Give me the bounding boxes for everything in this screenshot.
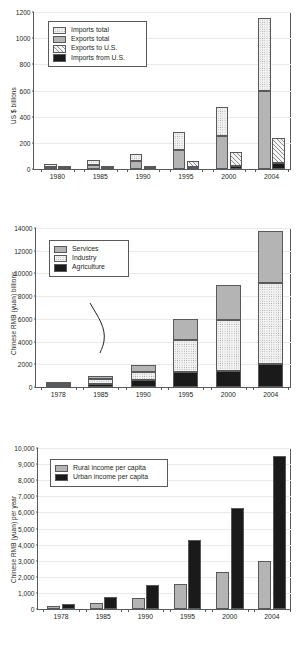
gridline bbox=[38, 529, 291, 530]
y-tick-mark bbox=[36, 592, 38, 593]
x-tick-mark bbox=[118, 387, 119, 390]
legend-swatch-solidgray-icon bbox=[55, 465, 68, 473]
y-tick-label: 4,000 bbox=[18, 541, 35, 548]
y-tick-mark bbox=[36, 464, 38, 465]
bar-rural-2004 bbox=[258, 561, 271, 609]
legend-label: Services bbox=[72, 246, 98, 253]
bar-segment-rural-income bbox=[47, 606, 60, 609]
bar-segment-agriculture bbox=[88, 384, 113, 387]
x-tick-mark bbox=[128, 609, 129, 612]
gridline bbox=[34, 12, 291, 13]
legend-item: Services bbox=[54, 246, 124, 254]
x-tick-mark bbox=[245, 169, 246, 172]
x-tick-label: 1995 bbox=[178, 391, 193, 398]
x-tick-mark bbox=[168, 387, 169, 390]
bar-segment-exports-total bbox=[173, 150, 186, 169]
legend-label: Rural income per capita bbox=[73, 465, 146, 472]
figure-page: US $ billions 02004006008001000120019801… bbox=[0, 0, 303, 656]
x-tick-label: 1985 bbox=[93, 391, 108, 398]
chart-legend-income: Rural income per capitaUrban income per … bbox=[50, 459, 168, 487]
bar-segment-agriculture bbox=[216, 371, 241, 387]
legend-label: Industry bbox=[72, 255, 97, 262]
gridline bbox=[36, 319, 291, 320]
bar-segment-urban-income bbox=[188, 540, 201, 609]
x-tick-mark bbox=[212, 609, 213, 612]
y-tick-label: 2,000 bbox=[18, 573, 35, 580]
y-tick-label: 1,000 bbox=[18, 589, 35, 596]
x-tick-mark bbox=[74, 169, 75, 172]
y-tick-label: 400 bbox=[19, 113, 30, 120]
y-tick-mark bbox=[34, 250, 36, 251]
legend-swatch-dots-icon bbox=[53, 27, 66, 35]
x-tick-mark bbox=[170, 169, 171, 172]
legend-label: Imports total bbox=[71, 27, 109, 34]
bar-segment-rural-income bbox=[174, 584, 187, 609]
gridline bbox=[38, 496, 291, 497]
bar-rural-2000 bbox=[216, 572, 229, 609]
bar-segment-exports-total bbox=[130, 161, 143, 169]
bar-rural-1995 bbox=[174, 584, 187, 609]
x-tick-mark bbox=[254, 609, 255, 612]
bar-segment-imports-total bbox=[173, 132, 186, 149]
x-tick-mark bbox=[76, 387, 77, 390]
bar-urban-1990 bbox=[146, 585, 159, 609]
gridline bbox=[38, 561, 291, 562]
legend-label: Agriculture bbox=[72, 264, 105, 271]
x-tick-mark bbox=[126, 387, 127, 390]
y-tick-mark bbox=[36, 528, 38, 529]
bar-segment-urban-income bbox=[62, 604, 75, 609]
bar-segment-imports-total bbox=[87, 160, 100, 165]
bar-segment-industry bbox=[173, 340, 198, 372]
y-tick-label: 8,000 bbox=[18, 477, 35, 484]
gridline bbox=[34, 117, 291, 118]
y-tick-mark bbox=[36, 544, 38, 545]
y-tick-label: 0 bbox=[29, 384, 33, 391]
bar-segment-services bbox=[173, 319, 198, 340]
legend-item: Urban income per capita bbox=[55, 474, 163, 482]
bar-us-trade-2004 bbox=[272, 138, 285, 169]
y-tick-label: 10000 bbox=[14, 270, 32, 277]
legend-item: Exports to U.S. bbox=[53, 45, 142, 53]
y-tick-label: 6000 bbox=[18, 315, 33, 322]
y-tick-mark bbox=[36, 576, 38, 577]
x-tick-mark bbox=[213, 169, 214, 172]
chart-china-income: Chinese RMB (yuan) per year 01,0002,0003… bbox=[0, 435, 303, 656]
bar-segment-exports-total bbox=[87, 165, 100, 169]
y-tick-mark bbox=[32, 142, 34, 143]
y-tick-mark bbox=[34, 318, 36, 319]
x-tick-mark bbox=[246, 387, 247, 390]
bar-total-trade-1995 bbox=[173, 132, 186, 169]
x-tick-label: 2004 bbox=[264, 173, 279, 180]
x-tick-mark bbox=[202, 169, 203, 172]
y-tick-label: 200 bbox=[19, 139, 30, 146]
bar-urban-1978 bbox=[62, 604, 75, 609]
gridline bbox=[38, 593, 291, 594]
legend-item: Industry bbox=[54, 255, 124, 263]
x-tick-mark bbox=[43, 609, 44, 612]
bar-us-trade-1995 bbox=[187, 161, 200, 169]
x-tick-label: 1985 bbox=[96, 613, 111, 620]
bar-us-trade-1985 bbox=[101, 168, 114, 169]
x-tick-mark bbox=[163, 609, 164, 612]
x-tick-mark bbox=[41, 387, 42, 390]
x-tick-label: 1990 bbox=[136, 173, 151, 180]
x-tick-label: 2004 bbox=[264, 613, 279, 620]
bar-gdp-1995 bbox=[173, 319, 198, 387]
bar-segment-industry bbox=[88, 379, 113, 384]
bar-segment-services bbox=[131, 365, 156, 371]
bar-us-trade-2000 bbox=[230, 152, 243, 169]
y-tick-label: 10,000 bbox=[14, 445, 34, 452]
x-tick-label: 1985 bbox=[93, 173, 108, 180]
chart-legend-trade: Imports totalExports totalExports to U.S… bbox=[48, 21, 147, 67]
legend-item: Exports total bbox=[53, 36, 142, 44]
bar-segment-imports-total bbox=[216, 107, 229, 136]
bar-segment-imports-total bbox=[130, 154, 143, 161]
bar-segment-agriculture bbox=[258, 364, 283, 387]
bar-urban-1985 bbox=[104, 597, 117, 609]
y-tick-mark bbox=[34, 228, 36, 229]
bar-segment-exports-total bbox=[216, 136, 229, 169]
y-tick-label: 0 bbox=[27, 166, 31, 173]
x-tick-label: 1980 bbox=[50, 173, 65, 180]
legend-swatch-black-icon bbox=[55, 474, 68, 482]
chart-china-gdp-sector: Chinese RMB (yuan) billions 020004000600… bbox=[0, 215, 303, 435]
